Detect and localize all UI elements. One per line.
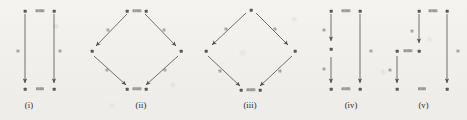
vertex-bottom-left — [24, 88, 27, 91]
edge-label-top — [342, 9, 351, 12]
edge-label-bottom — [342, 87, 351, 90]
caption-iii: (iii) — [196, 100, 304, 110]
edge-label-bottom — [133, 87, 142, 90]
vertex-bottom — [240, 89, 243, 92]
edge-label-right — [59, 50, 62, 53]
vertex-top-left — [330, 10, 333, 13]
vertex-upper-middle-top — [418, 10, 421, 13]
vertex-left — [205, 50, 208, 53]
edge-label-lower-right — [279, 70, 282, 73]
edge-label-upper-right — [274, 28, 277, 31]
vertex-lower-left-bottom — [396, 88, 399, 91]
diagram-i: (i) — [0, 0, 100, 120]
edge-label-left-lower — [323, 68, 326, 71]
diagram-v: (v) — [392, 0, 467, 120]
edge-label-bottom — [418, 87, 426, 90]
edge-label-lower-left — [106, 69, 109, 72]
edge-left-to-bottom — [208, 56, 240, 86]
diagram-iv: (iv) — [310, 0, 392, 120]
vertex-top-companion — [145, 10, 148, 13]
diagram-ii: (ii) — [86, 0, 196, 120]
caption-ii: (ii) — [86, 100, 196, 110]
edge-label-left — [17, 50, 20, 53]
vertex-top-left — [24, 10, 27, 13]
edge-label-top — [133, 9, 142, 12]
edge-right-to-bottom — [260, 56, 292, 86]
edge-label-bottom — [36, 87, 44, 90]
vertex-top-right — [446, 10, 449, 13]
vertex-top — [126, 10, 129, 13]
vertex-left — [91, 50, 94, 53]
edge-label-right — [457, 50, 460, 53]
vertex-bottom-right — [359, 88, 362, 91]
edge-label-lower-right — [164, 69, 167, 72]
edge-top-to-right — [256, 13, 288, 45]
diagram-iii-graphics — [196, 0, 304, 100]
edge-label-lower-left — [219, 70, 222, 73]
edge-label-top — [36, 9, 45, 12]
edge-top-to-left — [96, 14, 127, 46]
diagram-iv-graphics — [310, 0, 392, 100]
edge-top-to-left — [212, 13, 246, 45]
diagram-i-graphics — [0, 0, 100, 100]
edge-label-upper-middle — [411, 30, 414, 33]
edge-label-upper-left — [107, 29, 110, 32]
diagram-iii: (iii) — [196, 0, 304, 120]
edge-label-right — [370, 50, 373, 53]
edge-label-lower-left — [389, 69, 392, 72]
caption-i: (i) — [0, 100, 79, 110]
vertex-bottom-companion — [145, 88, 148, 91]
vertex-bottom-right — [53, 88, 56, 91]
vertex-top-right — [53, 10, 56, 13]
vertex-upper-middle-bottom — [418, 50, 421, 53]
edge-left-to-bottom — [94, 56, 126, 85]
edge-label-middle — [404, 49, 413, 52]
vertex-bottom — [126, 88, 129, 91]
vertex-middle-left — [330, 48, 333, 51]
vertex-right — [180, 50, 183, 53]
vertex-top-right — [359, 10, 362, 13]
vertex-bottom-left — [330, 88, 333, 91]
vertex-bottom-companion — [259, 89, 262, 92]
caption-v: (v) — [386, 100, 461, 110]
vertex-lower-left-top — [396, 50, 399, 53]
caption-iv: (iv) — [310, 100, 392, 110]
edge-label-upper-left — [225, 28, 228, 31]
figure-diagram-row: (i) (ii) — [0, 0, 467, 120]
edge-right-to-bottom — [146, 56, 178, 85]
edge-label-top — [429, 9, 438, 12]
edge-label-left-upper — [323, 29, 326, 32]
edge-label-bottom — [247, 88, 256, 91]
edge-label-upper-right — [163, 29, 166, 32]
vertex-bottom-right — [446, 88, 449, 91]
vertex-right — [294, 50, 297, 53]
edge-top-to-right — [145, 14, 176, 46]
vertex-top — [250, 9, 253, 12]
